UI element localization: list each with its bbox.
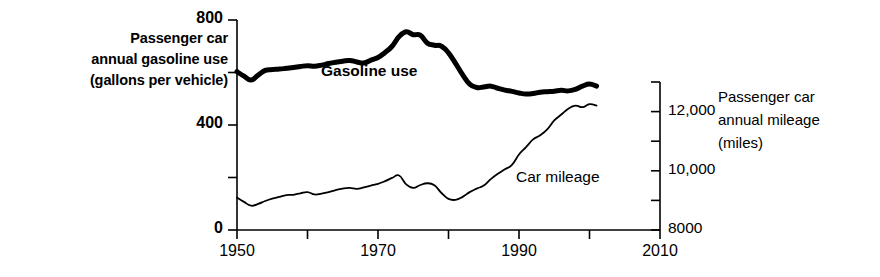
xtick-label-1950: 1950 xyxy=(197,242,277,260)
right-axis-title-line-1: Passenger car xyxy=(718,88,815,105)
annotation-gasoline-use: Gasoline use xyxy=(321,62,417,80)
x-axis xyxy=(237,230,660,239)
xtick-label-1970: 1970 xyxy=(338,242,418,260)
left-ytick-label-0: 0 xyxy=(163,219,223,237)
left-ytick-label-800: 800 xyxy=(163,9,223,27)
left-axis xyxy=(228,20,237,230)
annotation-car-mileage: Car mileage xyxy=(516,168,600,186)
right-axis-title-line-3: (miles) xyxy=(718,134,763,151)
xtick-label-2010: 2010 xyxy=(620,242,700,260)
xtick-label-1990: 1990 xyxy=(479,242,559,260)
series-line-car-mileage xyxy=(237,104,597,206)
left-axis-title-line-2: annual gasoline use xyxy=(91,51,228,67)
left-ytick-label-400: 400 xyxy=(163,114,223,132)
right-axis-title: Passenger carannual mileage(miles) xyxy=(718,85,880,154)
left-axis-title-line-3: (gallons per vehicle) xyxy=(90,72,228,88)
left-axis-title: Passenger carannual gasoline use(gallons… xyxy=(0,28,228,91)
left-axis-title-line-1: Passenger car xyxy=(130,30,228,46)
right-axis-title-line-2: annual mileage xyxy=(718,111,820,128)
right-ytick-label-12000: 12,000 xyxy=(668,101,715,119)
right-axis xyxy=(651,82,660,230)
chart-figure: Passenger carannual gasoline use(gallons… xyxy=(0,0,880,277)
right-ytick-label-10000: 10,000 xyxy=(668,160,715,178)
right-ytick-label-8000: 8000 xyxy=(668,219,702,237)
